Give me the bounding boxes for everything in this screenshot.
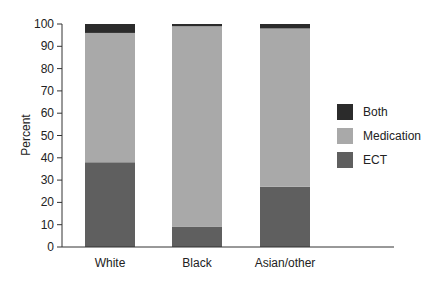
legend-swatch-ect (337, 152, 353, 168)
bar-segment-both (172, 24, 222, 26)
y-tick-label: 30 (41, 173, 55, 187)
bars (85, 24, 310, 247)
bar-segment-medication (260, 28, 310, 186)
bar-segment-medication (172, 26, 222, 227)
bar-black (172, 24, 222, 247)
legend-item-both: Both (337, 100, 421, 124)
y-tick-label: 50 (41, 129, 55, 143)
bar-segment-ect (172, 227, 222, 247)
legend-label: Medication (363, 129, 421, 143)
bar-white (85, 24, 135, 247)
bar-segment-ect (260, 187, 310, 247)
y-tick-label: 100 (34, 17, 54, 31)
bar-segment-ect (85, 162, 135, 247)
bar-segment-both (260, 24, 310, 28)
legend-item-medication: Medication (337, 124, 421, 148)
y-tick-label: 90 (41, 39, 55, 53)
bar-segment-both (85, 24, 135, 33)
legend-swatch-medication (337, 128, 353, 144)
x-axis: WhiteBlackAsian/other (62, 247, 394, 270)
y-tick-label: 80 (41, 62, 55, 76)
bar-segment-medication (85, 33, 135, 162)
y-axis-title: Percent (19, 114, 33, 156)
x-category-label: Asian/other (255, 256, 316, 270)
x-category-label: Black (182, 256, 212, 270)
y-tick-label: 70 (41, 84, 55, 98)
y-tick-label: 40 (41, 151, 55, 165)
y-tick-label: 0 (47, 240, 54, 254)
x-category-label: White (95, 256, 126, 270)
legend-label: ECT (363, 153, 387, 167)
y-tick-label: 60 (41, 106, 55, 120)
legend-item-ect: ECT (337, 148, 421, 172)
legend: Both Medication ECT (337, 100, 421, 172)
bar-asian-other (260, 24, 310, 247)
legend-swatch-both (337, 104, 353, 120)
y-axis: 0102030405060708090100 (34, 17, 62, 254)
y-tick-label: 20 (41, 195, 55, 209)
y-tick-label: 10 (41, 218, 55, 232)
legend-label: Both (363, 105, 388, 119)
